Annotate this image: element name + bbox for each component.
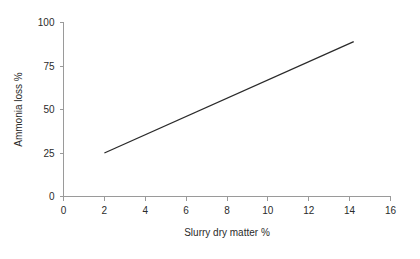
x-tick-label: 16 xyxy=(385,205,397,216)
x-tick-label: 10 xyxy=(262,205,274,216)
y-tick-label: 75 xyxy=(43,61,55,72)
y-tick-label: 25 xyxy=(43,148,55,159)
x-tick-label: 0 xyxy=(61,205,67,216)
y-tick-label: 50 xyxy=(43,104,55,115)
chart-figure: 0255075100 0246810121416 Slurry dry matt… xyxy=(0,0,420,259)
data-series-group xyxy=(104,42,353,153)
y-axis-ticks: 0255075100 xyxy=(38,17,64,202)
x-axis-title: Slurry dry matter % xyxy=(184,227,270,238)
x-tick-label: 12 xyxy=(303,205,315,216)
series-line-0 xyxy=(104,42,353,153)
y-tick-label: 100 xyxy=(38,17,55,28)
x-axis-ticks: 0246810121416 xyxy=(61,197,397,216)
y-tick-label: 0 xyxy=(49,191,55,202)
x-tick-label: 8 xyxy=(224,205,230,216)
x-tick-label: 6 xyxy=(183,205,189,216)
axes-group xyxy=(64,23,391,197)
y-axis-title: Ammonia loss % xyxy=(13,72,24,147)
line-chart: 0255075100 0246810121416 Slurry dry matt… xyxy=(0,0,420,259)
x-tick-label: 4 xyxy=(142,205,148,216)
x-tick-label: 2 xyxy=(102,205,108,216)
x-tick-label: 14 xyxy=(344,205,356,216)
